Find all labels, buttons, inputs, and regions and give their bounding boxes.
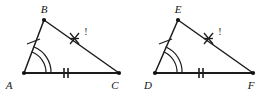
angle-mark-d-double-arc xyxy=(164,47,182,73)
vertex-label-f: F xyxy=(247,79,255,91)
vertex-dot-f xyxy=(251,71,255,75)
vertex-label-a: A xyxy=(5,79,13,91)
vertex-label-b: B xyxy=(41,3,48,15)
vertex-label-d: D xyxy=(143,79,152,91)
side-bc xyxy=(44,20,119,73)
triangle-abc: A B C ! xyxy=(5,3,121,91)
tick-mark-de-single xyxy=(159,39,172,44)
angle-mark-a-double-arc xyxy=(32,47,51,73)
congruent-triangles-figure: A B C ! xyxy=(0,0,272,96)
side-annotation-right: ! xyxy=(218,26,221,37)
vertex-dot-d xyxy=(153,71,157,75)
tick-mark-ab-single xyxy=(27,39,40,44)
vertex-dot-b xyxy=(42,18,46,22)
geometry-diagram-canvas: A B C ! xyxy=(0,0,272,96)
triangle-def: D E F ! xyxy=(143,3,255,91)
vertex-label-e: E xyxy=(174,3,182,15)
side-ef xyxy=(178,20,253,73)
side-annotation-left: ! xyxy=(84,26,87,37)
vertex-dot-a xyxy=(22,71,26,75)
vertex-dot-e xyxy=(176,18,180,22)
side-de xyxy=(155,20,178,73)
vertex-label-c: C xyxy=(111,79,119,91)
vertex-dot-c xyxy=(117,71,121,75)
